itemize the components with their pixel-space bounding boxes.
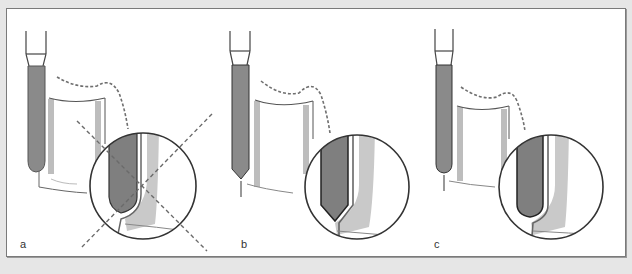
panel-c: c — [419, 9, 625, 256]
panel-b: b — [213, 9, 419, 256]
panel-label-c: c — [434, 238, 440, 250]
panel-a-illustration — [7, 9, 213, 256]
panel-label-a: a — [20, 238, 26, 250]
caption-strip — [0, 258, 632, 274]
panel-b-illustration — [213, 9, 419, 256]
figure-frame: a b — [6, 8, 626, 257]
panel-label-b: b — [241, 238, 247, 250]
panel-c-illustration — [419, 9, 625, 256]
panel-a: a — [7, 9, 213, 256]
